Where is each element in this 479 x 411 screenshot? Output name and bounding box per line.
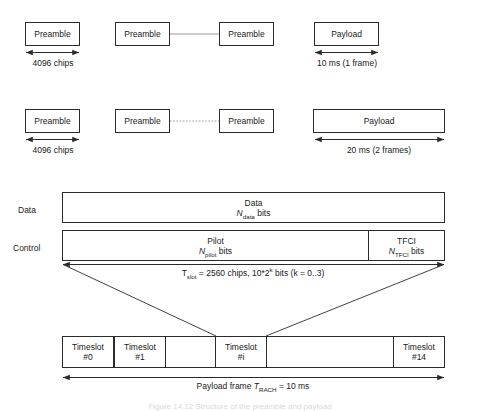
payload-label: Payload (331, 29, 362, 39)
payload-frame-prefix: Payload frame (197, 381, 254, 391)
preamble-label: Preamble (124, 116, 160, 126)
data-row-label: Data (18, 205, 36, 215)
preamble-box-row2-1: Preamble (25, 109, 80, 133)
payload-frame-subscript: RACH (259, 386, 277, 393)
pilot-bits-subscript: pilot (205, 250, 216, 257)
preamble-label: Preamble (34, 29, 70, 39)
timeslot-index: #i (238, 352, 245, 362)
figure-canvas: Preamble Preamble Preamble Payload 4096 … (0, 0, 479, 411)
pilot-bits-suffix: bits (216, 246, 232, 256)
tfci-field-box: TFCI NTFCI bits (368, 230, 445, 261)
preamble-label: Preamble (228, 116, 264, 126)
preamble-box-row2-3: Preamble (219, 109, 274, 133)
timeslot-label: Timeslot (124, 342, 156, 352)
timeslot-label: Timeslot (403, 342, 435, 352)
data-bits-subscript: data (243, 212, 255, 219)
data-field-bits: Ndata bits (237, 208, 271, 218)
preamble-box-row1-1: Preamble (25, 22, 80, 46)
data-field-box: Data Ndata bits (62, 192, 445, 223)
tfci-bits-subscript: TFCI (395, 250, 409, 257)
tfci-field-name: TFCI (397, 236, 416, 246)
pilot-field-name: Pilot (207, 236, 224, 246)
data-bits-suffix: bits (255, 208, 271, 218)
control-row-label: Control (13, 243, 40, 253)
data-field-name: Data (245, 198, 263, 208)
slot-text-b: bits (k = 0..3) (273, 268, 325, 278)
preamble-box-row1-2: Preamble (115, 22, 170, 46)
slot-text-a: = 2560 chips, 10*2 (197, 268, 270, 278)
payload-frame-annotation: Payload frame TRACH = 10 ms (153, 381, 353, 391)
payload-box-row2: Payload (313, 109, 445, 133)
preamble-label: Preamble (124, 29, 160, 39)
payload-box-row1: Payload (314, 22, 379, 46)
duration-label-row2: 20 ms (2 frames) (335, 145, 423, 155)
timeslot-index: #1 (135, 352, 144, 362)
duration-label-row1: 10 ms (1 frame) (303, 58, 391, 68)
pilot-field-box: Pilot Npilot bits (62, 230, 369, 261)
tfci-field-bits: NTFCI bits (389, 246, 424, 256)
preamble-box-row1-3: Preamble (219, 22, 274, 46)
timeslot-box-14: Timeslot #14 (393, 336, 445, 368)
timeslot-index: #0 (83, 352, 92, 362)
figure-caption: Figure 14.12 Structure of the preamble a… (90, 402, 390, 411)
tfci-bits-suffix: bits (409, 246, 425, 256)
payload-label: Payload (364, 116, 395, 126)
timeslot-box-i: Timeslot #i (215, 336, 267, 368)
slot-annotation: Tslot = 2560 chips, 10*2k bits (k = 0..3… (143, 268, 363, 278)
preamble-label: Preamble (228, 29, 264, 39)
timeslot-label: Timeslot (225, 342, 257, 352)
slot-symbol-subscript: slot (187, 273, 197, 280)
timeslot-box-1: Timeslot #1 (114, 336, 166, 368)
preamble-box-row2-2: Preamble (115, 109, 170, 133)
chips-label-row2: 4096 chips (17, 145, 89, 155)
payload-frame-suffix: = 10 ms (277, 381, 310, 391)
preamble-label: Preamble (34, 116, 70, 126)
pilot-field-bits: Npilot bits (199, 246, 232, 256)
timeslot-label: Timeslot (72, 342, 104, 352)
timeslot-box-0: Timeslot #0 (62, 336, 114, 368)
timeslot-index: #14 (412, 352, 426, 362)
chips-label-row1: 4096 chips (17, 58, 89, 68)
